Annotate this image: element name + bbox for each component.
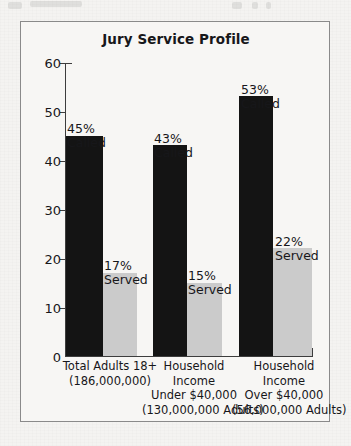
bar-called-income-under-40k[interactable]: [153, 145, 187, 356]
x-label-line: Household: [232, 359, 336, 374]
bar-label-called-income-under-40k: 43% Called: [154, 132, 193, 159]
scan-artifacts: [0, 0, 351, 20]
x-label-income-over-40k: Household Income Over $40,000 (56,000,00…: [232, 359, 336, 417]
y-tick-label-40: 40: [21, 155, 61, 168]
x-label-line: Over $40,000: [232, 388, 336, 403]
x-label-income-under-40k: Household Income Under $40,000 (130,000,…: [142, 359, 246, 417]
plot-area: 60 50 40 30 20 10 0 45% Called 17% Serve…: [65, 63, 313, 357]
x-label-line: (56,000,000 Adults): [232, 403, 336, 418]
bar-label-served-income-under-40k: 15% Served: [188, 269, 232, 296]
bar-label-served-total-adults: 17% Served: [104, 259, 148, 286]
x-axis-line: [65, 356, 313, 357]
bar-label-word: Served: [275, 248, 319, 263]
x-label-line: Under $40,000: [142, 388, 246, 403]
bar-label-word: Called: [154, 145, 193, 160]
x-label-line: Income: [142, 374, 246, 389]
x-label-line: Household: [142, 359, 246, 374]
chart-frame: Jury Service Profile 60 50 40 30 20 10 0: [20, 21, 330, 422]
x-label-line: (130,000,000 Adults): [142, 403, 246, 418]
bar-called-total-adults[interactable]: [66, 136, 103, 357]
y-tick-label-50: 50: [21, 106, 61, 119]
y-tick-label-0: 0: [21, 351, 61, 364]
y-tick-label-60: 60: [21, 57, 61, 70]
bar-label-word: Served: [188, 282, 232, 297]
bar-label-word: Called: [67, 135, 106, 150]
x-label-line: Income: [232, 374, 336, 389]
bar-called-income-over-40k[interactable]: [239, 96, 273, 356]
chart-page: Jury Service Profile 60 50 40 30 20 10 0: [0, 0, 351, 446]
bar-label-word: Served: [104, 272, 148, 287]
bar-label-word: Called: [241, 96, 280, 111]
bar-served-income-over-40k[interactable]: [273, 248, 312, 356]
chart-title: Jury Service Profile: [21, 31, 331, 47]
x-axis-category-labels: Total Adults 18+ (186,000,000) Household…: [66, 359, 328, 421]
y-axis-top-cap: [65, 63, 72, 64]
y-tick-label-30: 30: [21, 204, 61, 217]
bar-label-called-income-over-40k: 53% Called: [241, 83, 280, 110]
y-tick-label-20: 20: [21, 253, 61, 266]
bar-label-called-total-adults: 45% Called: [67, 122, 106, 149]
x-axis-right-cap: [312, 348, 313, 357]
bar-label-served-income-over-40k: 22% Served: [275, 235, 319, 262]
y-tick-label-10: 10: [21, 302, 61, 315]
